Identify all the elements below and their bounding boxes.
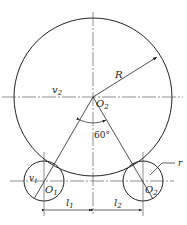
radius-arrow-R [93,57,157,97]
radius-leader-r [150,163,175,175]
label-R: R [114,69,123,80]
label-l2: l2 [114,197,122,210]
label-v2: v2 [52,84,63,97]
label-O2-right: O2 [145,184,158,197]
roller-geometry-diagram: R r v2 v1 O2 O1 O2 60° l1 l2 [0,0,187,225]
label-l1: l1 [66,197,74,210]
label-v1: v1 [29,173,38,184]
label-O2-center: O2 [96,98,109,111]
label-angle: 60° [94,130,110,140]
label-O1: O1 [45,184,58,197]
label-r: r [178,158,183,168]
